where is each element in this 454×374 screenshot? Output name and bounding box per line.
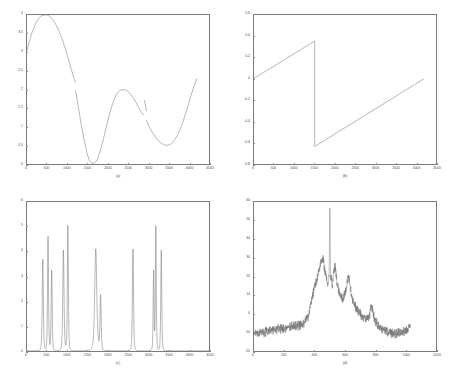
x-tick-label: 2000 xyxy=(104,354,112,357)
x-tick-mark xyxy=(190,163,191,165)
figure-canvas: 00.511.522.533.54 0500100015002000250030… xyxy=(0,0,454,374)
x-tick-mark xyxy=(67,350,68,352)
x-tick-mark xyxy=(314,163,315,165)
y-tick-label: 1.5 xyxy=(0,107,23,110)
x-tick-mark xyxy=(87,163,88,165)
x-tick-mark xyxy=(108,350,109,352)
x-tick-label: 0 xyxy=(252,354,254,357)
data-series-line xyxy=(254,41,424,146)
y-tick-mark xyxy=(253,79,255,80)
x-tick-mark xyxy=(396,163,397,165)
y-tick-mark xyxy=(253,201,255,202)
x-tick-label: 400 xyxy=(311,354,317,357)
x-tick-mark xyxy=(67,163,68,165)
x-tick-mark xyxy=(355,163,356,165)
x-tick-label: 3500 xyxy=(165,354,173,357)
data-series-line xyxy=(146,78,197,145)
x-tick-label: 600 xyxy=(342,354,348,357)
y-tick-label: 6 xyxy=(0,199,23,202)
x-tick-mark xyxy=(437,163,438,165)
x-tick-label: 4500 xyxy=(206,167,214,170)
data-series-line xyxy=(76,90,145,164)
y-tick-label: 10 xyxy=(227,294,250,297)
y-tick-label: 60 xyxy=(227,199,250,202)
x-tick-label: 800 xyxy=(373,354,379,357)
x-tick-mark xyxy=(26,350,27,352)
y-tick-mark xyxy=(253,220,255,221)
subplot-b: -0.8-0.6-0.4-0.200.20.40.6 0500100015002… xyxy=(227,0,454,187)
y-tick-mark xyxy=(253,295,255,296)
y-tick-mark xyxy=(253,143,255,144)
subplot-d-caption: (d) xyxy=(325,361,365,365)
y-tick-label: 3 xyxy=(0,275,23,278)
x-tick-mark xyxy=(335,163,336,165)
x-tick-label: 500 xyxy=(44,354,50,357)
y-tick-label: 0 xyxy=(0,350,23,353)
y-tick-label: 0 xyxy=(227,77,250,80)
y-tick-mark xyxy=(26,33,28,34)
y-tick-label: 0.5 xyxy=(0,144,23,147)
x-tick-label: 2500 xyxy=(124,167,132,170)
data-series-line xyxy=(254,208,410,338)
y-tick-mark xyxy=(26,127,28,128)
x-tick-label: 3000 xyxy=(145,354,153,357)
subplot-a-axes xyxy=(26,14,210,165)
x-tick-label: 3500 xyxy=(165,167,173,170)
y-tick-mark xyxy=(253,36,255,37)
x-tick-label: 3000 xyxy=(145,167,153,170)
y-tick-mark xyxy=(253,239,255,240)
y-tick-label: 3.5 xyxy=(0,31,23,34)
y-tick-label: -10 xyxy=(227,331,250,334)
subplot-d: -20-100102030405060 02004006008001000120… xyxy=(227,187,454,374)
x-tick-label: 1000 xyxy=(290,167,298,170)
y-tick-label: 0.6 xyxy=(227,12,250,15)
x-tick-label: 0 xyxy=(252,167,254,170)
y-tick-mark xyxy=(26,327,28,328)
x-tick-mark xyxy=(417,163,418,165)
y-tick-label: 0 xyxy=(0,163,23,166)
y-tick-label: 2 xyxy=(0,300,23,303)
subplot-c: 0123456 05001000150020002500300035004000… xyxy=(0,187,227,374)
y-tick-label: -0.4 xyxy=(227,120,250,123)
y-tick-mark xyxy=(26,90,28,91)
x-tick-label: 2000 xyxy=(331,167,339,170)
x-tick-label: 2500 xyxy=(351,167,359,170)
x-tick-mark xyxy=(284,350,285,352)
x-tick-mark xyxy=(273,163,274,165)
x-tick-mark xyxy=(169,350,170,352)
x-tick-label: 1500 xyxy=(311,167,319,170)
x-tick-label: 1500 xyxy=(84,167,92,170)
x-tick-mark xyxy=(46,350,47,352)
y-tick-label: 40 xyxy=(227,237,250,240)
y-tick-label: 0.2 xyxy=(227,55,250,58)
y-tick-mark xyxy=(26,108,28,109)
x-tick-mark xyxy=(210,350,211,352)
subplot-a-plot-area xyxy=(27,15,209,164)
y-tick-mark xyxy=(26,251,28,252)
y-tick-label: 0 xyxy=(227,313,250,316)
y-tick-mark xyxy=(253,314,255,315)
x-tick-mark xyxy=(294,163,295,165)
y-tick-mark xyxy=(253,57,255,58)
y-tick-label: 4 xyxy=(0,12,23,15)
x-tick-label: 1000 xyxy=(63,167,71,170)
subplot-a: 00.511.522.533.54 0500100015002000250030… xyxy=(0,0,227,187)
x-tick-mark xyxy=(190,350,191,352)
y-tick-mark xyxy=(253,333,255,334)
x-tick-mark xyxy=(314,350,315,352)
subplot-b-axes xyxy=(253,14,437,165)
y-tick-label: 3 xyxy=(0,50,23,53)
y-tick-mark xyxy=(253,277,255,278)
y-tick-mark xyxy=(26,226,28,227)
y-tick-label: 0.4 xyxy=(227,34,250,37)
y-tick-mark xyxy=(253,100,255,101)
x-tick-label: 2000 xyxy=(104,167,112,170)
subplot-c-caption: (c) xyxy=(98,361,138,365)
y-tick-label: 1 xyxy=(0,325,23,328)
x-tick-mark xyxy=(128,350,129,352)
y-tick-label: 20 xyxy=(227,275,250,278)
x-tick-mark xyxy=(108,163,109,165)
x-tick-label: 4000 xyxy=(186,167,194,170)
x-tick-label: 4000 xyxy=(413,167,421,170)
y-tick-mark xyxy=(26,302,28,303)
